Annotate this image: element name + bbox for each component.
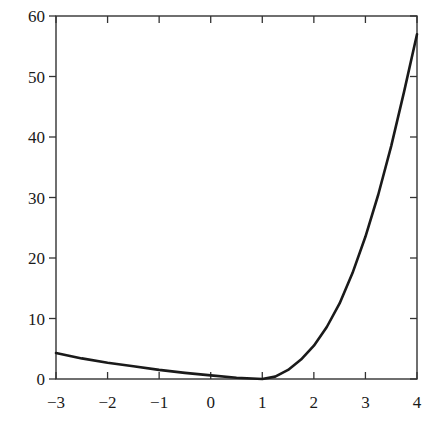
y-tick-label: 20 bbox=[28, 249, 45, 268]
x-tick-label: −2 bbox=[99, 393, 117, 412]
y-axis: 0102030405060 bbox=[28, 7, 417, 389]
x-tick-label: 3 bbox=[361, 393, 370, 412]
x-tick-label: −3 bbox=[47, 393, 65, 412]
x-axis: −3−2−101234 bbox=[47, 16, 422, 412]
x-tick-label: 4 bbox=[413, 393, 422, 412]
y-tick-label: 30 bbox=[28, 189, 45, 208]
y-tick-label: 0 bbox=[37, 370, 46, 389]
axes-box bbox=[56, 16, 417, 379]
y-tick-label: 50 bbox=[28, 68, 45, 87]
x-tick-label: −1 bbox=[150, 393, 168, 412]
y-tick-label: 10 bbox=[28, 310, 45, 329]
y-tick-label: 60 bbox=[28, 7, 45, 26]
x-tick-label: 2 bbox=[310, 393, 319, 412]
x-tick-label: 0 bbox=[206, 393, 215, 412]
data-curve bbox=[56, 34, 417, 379]
y-tick-label: 40 bbox=[28, 128, 45, 147]
x-tick-label: 1 bbox=[258, 393, 267, 412]
chart: −3−2−101234 0102030405060 bbox=[0, 0, 432, 439]
plot-frame bbox=[56, 16, 417, 379]
